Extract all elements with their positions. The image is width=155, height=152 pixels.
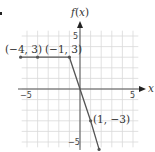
function-line — [21, 57, 100, 149]
x-tick-neg5: −5 — [20, 91, 32, 100]
point-label-neg4-3: (−4, 3) — [5, 43, 42, 55]
y-axis-label: f(x) — [70, 6, 89, 18]
x-tick-5: 5 — [130, 91, 135, 100]
point-label-neg1-3: (−1, 3) — [45, 43, 82, 55]
y-axis-arrow-icon — [77, 21, 83, 28]
y-tick-neg5: −5 — [68, 138, 80, 147]
x-axis-arrow-icon — [139, 86, 146, 92]
function-graph: x f(x) −5 5 5 −5 (−4, 3) (−1, 3) (1, −3) — [0, 0, 155, 152]
point-label-1-neg3: (1, −3) — [93, 113, 130, 125]
y-tick-5: 5 — [73, 32, 78, 41]
data-points — [19, 56, 101, 151]
item-bullet — [0, 12, 2, 15]
x-axis-label: x — [148, 82, 154, 94]
